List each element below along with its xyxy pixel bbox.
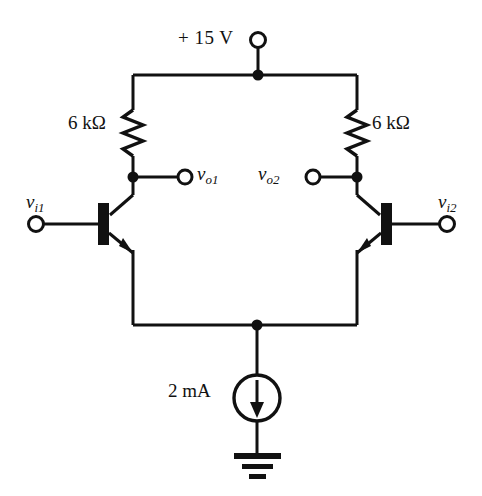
left-output-label: vo1	[197, 164, 218, 183]
left-collector-slant	[110, 195, 133, 215]
left-resistor-label: 6 kΩ	[68, 113, 106, 132]
ground-symbol-group	[234, 453, 281, 479]
right-resistor-branch	[347, 75, 367, 177]
right-collector-slant	[357, 195, 380, 215]
supply-rail-group	[133, 70, 357, 81]
left-input-subscript: i1	[34, 200, 44, 215]
left-resistor-zigzag	[123, 110, 143, 156]
current-source-group	[234, 325, 280, 455]
left-output-subscript: o1	[205, 172, 218, 187]
supply-terminal-group	[251, 33, 266, 76]
ground-bar-2	[242, 464, 273, 469]
right-resistor-zigzag	[347, 110, 367, 156]
right-output-label: vo2	[258, 164, 279, 183]
left-input-label: vi1	[26, 192, 45, 211]
right-emitter-arrowhead	[357, 238, 371, 253]
left-transistor-base-bar	[98, 203, 109, 245]
right-output-subscript: o2	[266, 172, 279, 187]
ground-bar-1	[234, 453, 281, 459]
right-input-terminal-circle	[440, 217, 455, 232]
right-input-label: vi2	[438, 192, 457, 211]
supply-terminal-circle	[251, 33, 266, 48]
ground-bar-3	[249, 474, 266, 479]
right-output-node-group	[306, 170, 363, 184]
schematic-canvas	[0, 0, 482, 496]
left-resistor-branch	[123, 75, 143, 177]
left-output-node-group	[128, 170, 193, 184]
supply-rail-junction-dot	[253, 70, 264, 81]
right-input-subscript: i2	[446, 200, 456, 215]
current-source-label: 2 mA	[168, 381, 211, 400]
right-output-terminal-circle	[306, 170, 320, 184]
left-input-terminal-circle	[29, 217, 44, 232]
right-transistor-base-bar	[381, 203, 392, 245]
left-output-terminal-circle	[178, 170, 192, 184]
right-resistor-label: 6 kΩ	[372, 113, 410, 132]
supply-voltage-label: + 15 V	[178, 28, 234, 47]
circuit-diagram: + 15 V 6 kΩ 6 kΩ vo1 vo2 vi1 vi2 2 mA	[0, 0, 482, 496]
tail-rail-group	[133, 320, 357, 331]
left-emitter-arrowhead	[119, 238, 133, 253]
